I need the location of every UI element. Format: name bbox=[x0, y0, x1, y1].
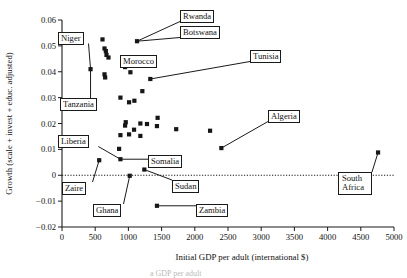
data-point-marker bbox=[132, 99, 136, 103]
y-tick-label: 0.06 bbox=[41, 15, 57, 25]
country-label-somalia: Somalia bbox=[148, 155, 182, 168]
data-point-marker bbox=[104, 49, 108, 53]
data-point-marker bbox=[145, 122, 149, 126]
data-point-marker bbox=[138, 134, 142, 138]
country-label-south-africa: South Africa bbox=[338, 172, 372, 195]
x-tick-label: 2500 bbox=[219, 232, 236, 242]
scatter-plot-figure: −0.02−0.0100.010.020.030.040.050.0605001… bbox=[0, 0, 407, 278]
y-axis-title: Growth (scale + invest + educ. adjusted) bbox=[4, 52, 14, 195]
data-point-marker bbox=[128, 70, 132, 74]
annotation-leader-line bbox=[93, 160, 100, 182]
data-point-marker bbox=[127, 132, 131, 136]
data-point-marker bbox=[138, 121, 142, 125]
data-point-marker bbox=[118, 96, 122, 100]
x-tick-label: 4500 bbox=[352, 232, 369, 242]
data-point-marker bbox=[219, 146, 223, 150]
country-label-algeria: Algeria bbox=[268, 110, 300, 123]
data-point-marker bbox=[155, 204, 159, 208]
y-tick-label: −0.02 bbox=[36, 222, 56, 232]
x-tick-label: 3000 bbox=[253, 232, 270, 242]
data-point-marker bbox=[142, 167, 146, 171]
country-label-niger: Niger bbox=[58, 32, 84, 45]
x-tick-label: 4000 bbox=[319, 232, 336, 242]
data-point-marker bbox=[156, 116, 160, 120]
y-tick-label: 0.01 bbox=[41, 144, 56, 154]
country-label-sudan: Sudan bbox=[172, 180, 199, 193]
x-tick-label: 3500 bbox=[286, 232, 303, 242]
data-point-marker bbox=[117, 147, 121, 151]
data-point-marker bbox=[97, 158, 101, 162]
data-point-marker bbox=[140, 89, 144, 93]
data-point-marker bbox=[148, 77, 152, 81]
y-tick-label: 0.05 bbox=[41, 41, 56, 51]
annotation-leader-line bbox=[150, 62, 250, 79]
data-point-marker bbox=[127, 100, 131, 104]
data-point-marker bbox=[103, 75, 107, 79]
country-label-ghana: Ghana bbox=[93, 204, 121, 217]
x-tick-label: 500 bbox=[89, 232, 102, 242]
data-point-marker bbox=[128, 174, 132, 178]
data-point-marker bbox=[132, 128, 136, 132]
data-point-marker bbox=[100, 37, 104, 41]
x-tick-label: 2000 bbox=[186, 232, 203, 242]
annotation-leader-line bbox=[221, 122, 268, 149]
annotation-leader-line bbox=[89, 44, 91, 70]
cut-off-caption: a GDP per adult bbox=[150, 269, 400, 278]
data-point-marker bbox=[135, 39, 139, 43]
data-point-marker bbox=[123, 123, 127, 127]
data-point-marker bbox=[208, 129, 212, 133]
x-tick-label: 0 bbox=[60, 232, 64, 242]
country-label-botswana: Botswana bbox=[180, 26, 220, 39]
country-label-rwanda: Rwanda bbox=[180, 10, 214, 23]
data-point-marker bbox=[376, 150, 380, 154]
data-point-marker bbox=[88, 67, 92, 71]
country-label-liberia: Liberia bbox=[58, 135, 89, 148]
y-tick-label: 0.04 bbox=[41, 67, 57, 77]
country-label-morocco: Morocco bbox=[120, 55, 157, 68]
y-tick-label: 0.02 bbox=[41, 119, 56, 129]
y-tick-label: 0.03 bbox=[41, 93, 56, 103]
country-label-tanzania: Tanzania bbox=[60, 98, 97, 111]
annotation-leader-line bbox=[144, 170, 172, 180]
data-point-marker bbox=[118, 133, 122, 137]
x-tick-label: 1000 bbox=[120, 232, 137, 242]
data-point-marker bbox=[118, 157, 122, 161]
country-label-zambia: Zambia bbox=[196, 204, 228, 217]
annotation-leader-line bbox=[372, 152, 378, 172]
annotation-leader-line bbox=[124, 176, 130, 204]
x-tick-label: 5000 bbox=[385, 232, 402, 242]
y-tick-label: 0 bbox=[52, 170, 56, 180]
country-label-zaire: Zaire bbox=[62, 182, 86, 195]
data-point-marker bbox=[106, 55, 110, 59]
y-tick-label: −0.01 bbox=[36, 196, 56, 206]
data-point-marker bbox=[174, 127, 178, 131]
data-point-marker bbox=[155, 124, 159, 128]
x-tick-label: 1500 bbox=[153, 232, 170, 242]
country-label-tunisia: Tunisia bbox=[250, 50, 281, 63]
x-axis-title: Initial GDP per adult (international $) bbox=[176, 252, 309, 262]
